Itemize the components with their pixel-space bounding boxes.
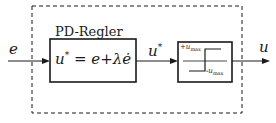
saturation-upper-label: +umax (180, 44, 201, 52)
formula-rhs: e+λė (91, 50, 131, 68)
diagram-canvas (0, 0, 276, 123)
intermediate-label-sup: * (158, 42, 163, 52)
group-label: PD-Regler (55, 25, 123, 38)
intermediate-label-text: u (148, 42, 158, 60)
intermediate-arrowhead-icon (170, 58, 178, 64)
lower-label-sub: max (213, 70, 224, 76)
output-label: u (259, 40, 269, 55)
lower-label-text: -u (206, 67, 213, 75)
saturation-lower-label: -umax (206, 68, 223, 76)
upper-label-sub: max (190, 46, 201, 52)
upper-label-text: +u (180, 43, 190, 51)
formula-sup: * (65, 50, 70, 60)
output-arrowhead-icon (262, 58, 270, 64)
pd-formula: u* = e+λė (55, 51, 131, 67)
intermediate-label: u* (148, 43, 162, 59)
input-label: e (9, 42, 18, 57)
formula-lhs: u (55, 50, 65, 68)
input-arrowhead-icon (42, 58, 50, 64)
formula-eq: = (74, 50, 87, 68)
